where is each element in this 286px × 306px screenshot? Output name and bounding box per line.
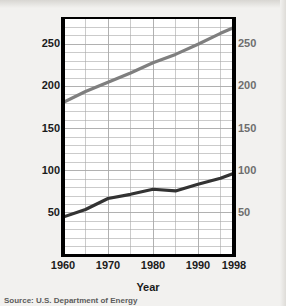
left-axis-spine	[61, 17, 65, 257]
right-axis-spine	[232, 17, 236, 257]
x-axis-tick-label: 1990	[186, 259, 210, 271]
page-edge-shadow-right	[280, 0, 286, 306]
left-axis-tick-label: 200	[42, 79, 60, 91]
source-note: Source: U.S. Department of Energy	[4, 296, 137, 305]
right-axis-tick-label: 50	[238, 206, 250, 218]
bottom-axis-spine	[61, 254, 236, 258]
plot-area	[63, 19, 234, 255]
right-axis-tick-label: 100	[238, 164, 256, 176]
left-axis-tick-label: 50	[48, 206, 60, 218]
x-axis-tick-label: 1980	[141, 259, 165, 271]
chart-figure: Energy consumption (in quadrillions of B…	[0, 0, 286, 306]
left-axis-tick-label: 250	[42, 37, 60, 49]
x-axis-tick-label: 1960	[51, 259, 75, 271]
left-axis-tick-label: 150	[42, 122, 60, 134]
x-axis-tick-label: 1998	[222, 259, 246, 271]
right-axis-tick-label: 200	[238, 79, 256, 91]
top-axis-spine	[61, 17, 236, 19]
left-axis-tick-label: 100	[42, 164, 60, 176]
right-axis-tick-label: 150	[238, 122, 256, 134]
x-axis-tick-label: 1970	[96, 259, 120, 271]
right-axis-tick-label: 250	[238, 37, 256, 49]
x-axis-title: Year	[63, 281, 233, 293]
